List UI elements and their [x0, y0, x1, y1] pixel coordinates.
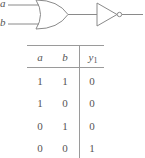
row-1-b: 1 [55, 75, 75, 87]
header-y-subscript: 1 [93, 56, 97, 65]
row-3-y: 0 [82, 120, 102, 132]
row-3-b: 1 [55, 120, 75, 132]
header-b: b [55, 51, 75, 63]
row-4-b: 0 [55, 142, 75, 154]
or-gate-icon [36, 0, 68, 29]
row-2-a: 1 [30, 97, 50, 109]
row-4-y: 1 [82, 142, 102, 154]
not-gate-icon [97, 3, 117, 26]
input-label-b: b [0, 17, 6, 28]
row-1-a: 1 [30, 75, 50, 87]
input-label-a: a [0, 0, 6, 9]
row-4-a: 0 [30, 142, 50, 154]
header-y1: y1 [83, 51, 103, 67]
inversion-bubble-icon [117, 12, 121, 16]
header-a: a [30, 51, 50, 63]
row-2-y: 0 [82, 97, 102, 109]
row-1-y: 0 [82, 75, 102, 87]
row-2-b: 0 [55, 97, 75, 109]
row-3-a: 0 [30, 120, 50, 132]
